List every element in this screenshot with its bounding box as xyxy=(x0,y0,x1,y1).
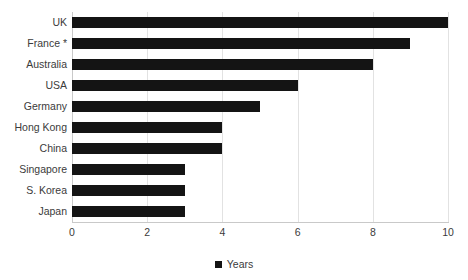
x-tick-label: 6 xyxy=(283,226,313,238)
bar xyxy=(72,206,185,217)
category-label: China xyxy=(0,138,67,159)
bar xyxy=(72,80,298,91)
x-axis-tick-labels: 0246810 xyxy=(0,226,468,242)
bar xyxy=(72,185,185,196)
category-label: USA xyxy=(0,75,67,96)
bar xyxy=(72,38,410,49)
legend-label: Years xyxy=(227,258,253,270)
x-tick-label: 4 xyxy=(207,226,237,238)
gridline-10 xyxy=(448,12,449,222)
x-tick-label: 8 xyxy=(358,226,388,238)
x-axis-line xyxy=(72,222,449,223)
x-tick-label: 10 xyxy=(433,226,463,238)
bar xyxy=(72,164,185,175)
x-tick-label: 2 xyxy=(132,226,162,238)
bar xyxy=(72,122,222,133)
category-label: UK xyxy=(0,12,67,33)
y-axis-category-labels: UKFrance *AustraliaUSAGermanyHong KongCh… xyxy=(0,12,67,222)
bar xyxy=(72,101,260,112)
category-label: Japan xyxy=(0,201,67,222)
chart-legend: Years xyxy=(0,255,468,273)
category-label: Germany xyxy=(0,96,67,117)
bar xyxy=(72,17,448,28)
bars-layer xyxy=(72,12,448,222)
legend-swatch-icon xyxy=(215,261,222,268)
bar-chart: UKFrance *AustraliaUSAGermanyHong KongCh… xyxy=(0,0,468,280)
plot-area xyxy=(72,12,448,222)
bar xyxy=(72,143,222,154)
category-label: Australia xyxy=(0,54,67,75)
category-label: Hong Kong xyxy=(0,117,67,138)
category-label: S. Korea xyxy=(0,180,67,201)
category-label: France * xyxy=(0,33,67,54)
category-label: Singapore xyxy=(0,159,67,180)
x-tick-label: 0 xyxy=(57,226,87,238)
bar xyxy=(72,59,373,70)
